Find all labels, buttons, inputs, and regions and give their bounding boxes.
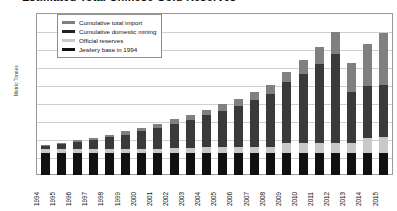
bar-segment	[105, 137, 114, 149]
bar-column	[263, 13, 279, 175]
bar-column	[182, 13, 198, 175]
bar-column	[247, 13, 263, 175]
bar-segment	[347, 63, 356, 92]
bar-segment	[266, 153, 275, 176]
chart-title: Estimated Total Chinese Gold Reserves	[22, 0, 236, 3]
stacked-bar	[121, 131, 130, 175]
bar-segment	[331, 153, 340, 176]
bar-column	[295, 13, 311, 175]
bar-segment	[234, 99, 243, 106]
bar-column	[198, 13, 214, 175]
bar-segment	[331, 143, 340, 152]
bar-segment	[331, 32, 340, 54]
legend-label: Jewlery base in 1994	[79, 46, 137, 53]
bar-segment	[153, 128, 162, 149]
chart-root: Estimated Total Chinese Gold Reserves Me…	[0, 0, 397, 211]
bar-column	[37, 13, 53, 175]
legend-label: Cumulative total import	[79, 19, 142, 26]
bar-segment	[73, 142, 82, 149]
bar-segment	[250, 100, 259, 147]
stacked-bar	[41, 145, 50, 175]
bar-segment	[299, 143, 308, 152]
legend-item: Jewlery base in 1994	[62, 45, 156, 54]
bar-segment	[137, 153, 146, 176]
stacked-bar	[218, 104, 227, 175]
x-tick-label: 2015	[372, 192, 396, 206]
bar-segment	[137, 131, 146, 149]
legend-swatch	[62, 30, 75, 33]
bar-segment	[186, 120, 195, 148]
bar-segment	[186, 153, 195, 176]
chart-legend: Cumulative total importCumulative domest…	[57, 14, 162, 58]
bar-segment	[363, 138, 372, 153]
bar-segment	[41, 153, 50, 176]
bar-segment	[282, 153, 291, 176]
stacked-bar	[57, 143, 66, 175]
x-axis-ticks: 1994199519961997199819992000200120022003…	[37, 178, 392, 211]
bar-segment	[379, 153, 388, 176]
bar-segment	[218, 111, 227, 147]
bar-segment	[234, 106, 243, 147]
stacked-bar	[250, 92, 259, 175]
bar-segment	[218, 153, 227, 176]
legend-swatch	[62, 39, 75, 42]
bar-column	[311, 13, 327, 175]
stacked-bar	[202, 110, 211, 175]
bar-segment	[121, 153, 130, 176]
bar-column	[231, 13, 247, 175]
legend-label: Cumulative domestic mining	[79, 28, 156, 35]
legend-swatch	[62, 21, 75, 24]
bar-segment	[347, 153, 356, 176]
stacked-bar	[315, 47, 324, 175]
bar-column	[166, 13, 182, 175]
bar-segment	[282, 82, 291, 143]
bar-segment	[363, 153, 372, 176]
bar-segment	[347, 92, 356, 143]
bar-segment	[315, 143, 324, 152]
stacked-bar	[299, 60, 308, 175]
bar-segment	[315, 47, 324, 64]
bar-segment	[250, 92, 259, 100]
bar-segment	[331, 54, 340, 143]
bar-segment	[202, 115, 211, 147]
bar-segment	[266, 85, 275, 94]
bar-segment	[299, 153, 308, 176]
bar-segment	[105, 153, 114, 176]
bar-segment	[315, 153, 324, 176]
legend-label: Official reserves	[79, 37, 123, 44]
bar-segment	[363, 86, 372, 137]
bar-segment	[347, 143, 356, 152]
legend-swatch	[62, 48, 75, 51]
bar-segment	[315, 64, 324, 143]
bar-segment	[89, 153, 98, 176]
bar-segment	[170, 153, 179, 176]
bar-segment	[153, 153, 162, 176]
stacked-bar	[153, 124, 162, 175]
legend-item: Official reserves	[62, 36, 156, 45]
legend-item: Cumulative domestic mining	[62, 27, 156, 36]
stacked-bar	[186, 115, 195, 175]
y-axis-label: Metric Tonnes	[14, 51, 19, 111]
bar-segment	[170, 124, 179, 148]
stacked-bar	[73, 140, 82, 175]
bar-column	[376, 13, 392, 175]
bar-segment	[202, 153, 211, 176]
stacked-bar	[347, 63, 356, 175]
stacked-bar	[266, 85, 275, 175]
x-tick-wrap: 2015	[376, 178, 392, 211]
bar-segment	[234, 153, 243, 176]
bar-segment	[266, 94, 275, 148]
bar-segment	[379, 137, 388, 153]
bar-segment	[299, 60, 308, 74]
bar-segment	[379, 33, 388, 85]
stacked-bar	[234, 99, 243, 175]
bar-column	[343, 13, 359, 175]
bar-segment	[282, 72, 291, 83]
bar-segment	[282, 143, 291, 152]
bar-column	[360, 13, 376, 175]
stacked-bar	[282, 72, 291, 175]
stacked-bar	[379, 33, 388, 175]
bar-segment	[121, 135, 130, 149]
bar-column	[214, 13, 230, 175]
stacked-bar	[363, 44, 372, 175]
